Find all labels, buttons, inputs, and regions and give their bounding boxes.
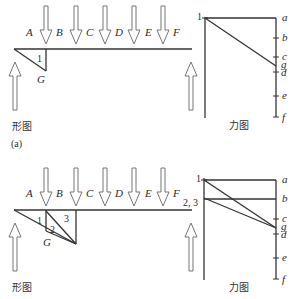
member-label: 1 — [37, 215, 42, 226]
node-label: 1 — [196, 173, 201, 184]
member-label: 2 — [50, 224, 55, 235]
load-arrow-icon — [99, 6, 111, 44]
scale-label: d — [281, 66, 287, 78]
node-label: G — [43, 236, 51, 248]
form-caption: 形图 — [12, 282, 32, 293]
space-label: B — [56, 187, 63, 199]
load-arrow-icon — [40, 168, 52, 206]
scale-label: e — [282, 89, 287, 101]
space-label: C — [86, 187, 94, 199]
load-arrow-icon — [99, 168, 111, 206]
scale-label: b — [282, 31, 288, 43]
force-caption: 力图 — [229, 119, 249, 131]
scale-label: d — [281, 228, 287, 240]
space-label: F — [172, 26, 180, 38]
node-label: 1 — [197, 11, 202, 22]
force-line — [205, 18, 276, 66]
space-label: C — [86, 26, 94, 38]
space-label: D — [114, 187, 123, 199]
force-caption: 力图 — [229, 281, 249, 293]
force-diagram-b: 1 a b c g d e f 力图 — [196, 173, 288, 293]
load-arrow-icon — [70, 168, 82, 206]
space-label: A — [25, 26, 33, 38]
scale-label: a — [282, 173, 288, 185]
space-label: D — [114, 26, 123, 38]
space-label: F — [172, 187, 180, 199]
reaction-arrow-icon — [9, 62, 21, 110]
load-arrow-icon — [40, 6, 52, 44]
reaction-arrow-icon — [185, 62, 197, 110]
node-label: G — [37, 73, 45, 85]
member-label: 1 — [37, 53, 42, 64]
force-diagram-a: 1 a b c g d e f 力图 — [197, 11, 288, 131]
space-label: B — [56, 26, 63, 38]
scale-label: e — [282, 251, 287, 263]
form-diagram-b: A B C D E F 1 2 3 G 2, 3 形图 — [9, 168, 198, 293]
scale-label: f — [282, 111, 287, 123]
panel-caption: (a) — [11, 138, 22, 150]
scale-label: f — [282, 273, 287, 285]
load-arrow-icon — [128, 168, 140, 206]
force-line — [204, 198, 276, 228]
space-label: A — [25, 187, 33, 199]
reaction-arrow-icon — [185, 223, 197, 271]
diagram-canvas: A B C D E F 1 G 形图 (a) 1 a b c g d e f 力… — [0, 0, 305, 299]
scale-label: a — [282, 11, 288, 23]
member-label: 3 — [64, 213, 69, 224]
load-arrow-icon — [70, 6, 82, 44]
force-line — [204, 180, 276, 228]
scale-label: b — [282, 192, 288, 204]
reaction-arrow-icon — [9, 223, 21, 271]
space-label: E — [144, 26, 152, 38]
form-caption: 形图 — [12, 121, 32, 132]
load-arrow-icon — [157, 168, 169, 206]
form-diagram-a: A B C D E F 1 G 形图 (a) — [9, 6, 197, 150]
load-arrow-icon — [157, 6, 169, 44]
right-label: 2, 3 — [183, 197, 198, 208]
load-arrow-icon — [128, 6, 140, 44]
space-label: E — [144, 187, 152, 199]
